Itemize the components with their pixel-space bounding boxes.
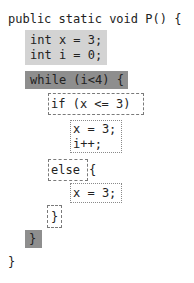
else-close-brace: }	[51, 209, 58, 225]
declaration-block: int x = 3; int i = 0;	[25, 30, 107, 65]
statement-line: x = 3;	[73, 121, 116, 137]
if-header: if (x <= 3)	[51, 96, 130, 112]
if-condition-block: if (x <= 3)	[48, 93, 144, 115]
declaration-line: int i = 0;	[30, 47, 102, 63]
statement-line: x = 3;	[73, 185, 116, 201]
else-open-brace: {	[89, 162, 96, 178]
method-close-brace: }	[8, 254, 15, 270]
else-block: else	[48, 159, 88, 181]
statement-line: i++;	[73, 136, 102, 152]
else-close-brace-block: }	[47, 205, 62, 228]
declaration-line: int x = 3;	[30, 32, 102, 48]
method-signature: public static void P() {	[8, 11, 181, 27]
while-close-brace-block: }	[25, 230, 42, 248]
while-header-block: while (i<4) {	[25, 71, 128, 89]
else-body-block: x = 3;	[70, 183, 122, 203]
if-body-block: x = 3; i++;	[70, 120, 122, 153]
else-header: else	[51, 162, 80, 178]
while-header: while (i<4) {	[30, 72, 124, 88]
while-close-brace: }	[29, 231, 36, 247]
